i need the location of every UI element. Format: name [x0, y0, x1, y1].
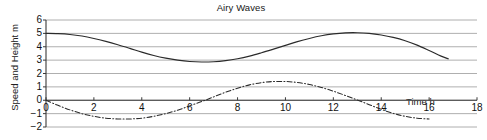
- x-tick-label-18: 18: [466, 103, 487, 113]
- gridlines-group: [46, 20, 477, 127]
- y-tick-label-1: 1: [18, 82, 42, 92]
- x-tick-label-8: 8: [227, 103, 249, 113]
- y-tick-label-5: 5: [18, 28, 42, 38]
- y-tick-label-6: 6: [18, 15, 42, 25]
- x-tick-label-16: 16: [418, 103, 440, 113]
- y-tick-label--2: −2: [18, 122, 42, 132]
- y-tick-label-3: 3: [18, 55, 42, 65]
- series-line-height: [46, 33, 448, 62]
- y-tick-label-4: 4: [18, 42, 42, 52]
- x-tick-label-2: 2: [83, 103, 105, 113]
- x-tick-label-6: 6: [179, 103, 201, 113]
- x-tick-label-14: 14: [370, 103, 392, 113]
- y-tick-label-2: 2: [18, 69, 42, 79]
- x-tick-label-0: 0: [35, 103, 57, 113]
- x-tick-label-4: 4: [131, 103, 153, 113]
- x-tick-label-12: 12: [322, 103, 344, 113]
- x-tick-label-10: 10: [274, 103, 296, 113]
